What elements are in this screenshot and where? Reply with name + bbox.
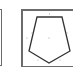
pentagon-icon — [0, 0, 73, 71]
